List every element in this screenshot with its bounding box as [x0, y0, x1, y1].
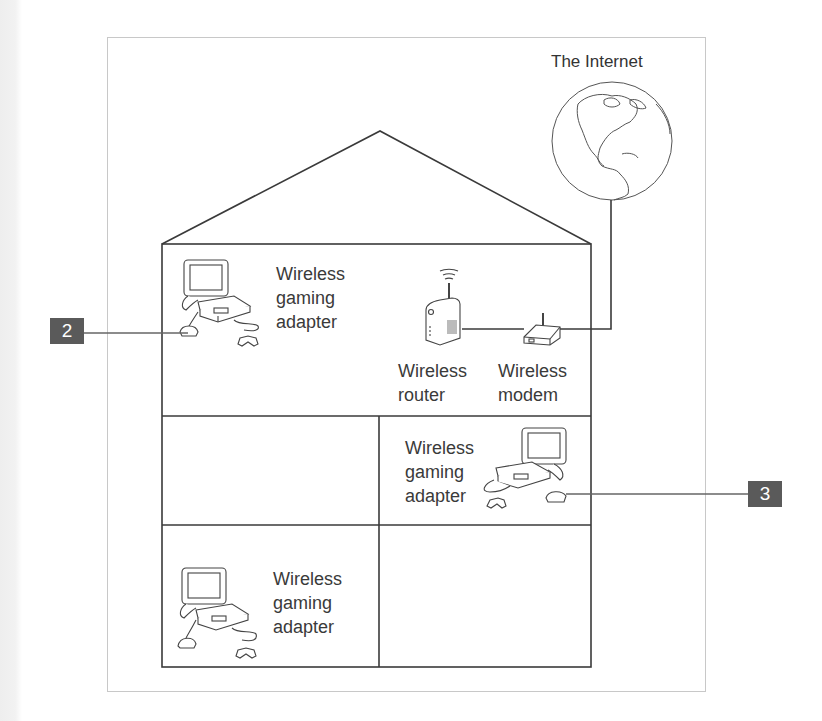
wireless-modem-icon [524, 313, 560, 345]
wireless-router-icon [426, 269, 460, 345]
game-console-icon [484, 428, 566, 508]
adapter-label-bottom: Wireless gaming adapter [273, 567, 342, 639]
adapter-label-top: Wireless gaming adapter [276, 262, 345, 334]
game-console-icon [178, 568, 256, 658]
game-console-icon [180, 260, 258, 346]
internet-label: The Internet [551, 52, 643, 72]
internet-connection-line [556, 200, 611, 329]
house-roof [162, 131, 591, 244]
callout-badge-2: 2 [50, 318, 84, 344]
router-label: Wireless router [398, 359, 467, 407]
modem-label: Wireless modem [498, 359, 567, 407]
adapter-label-middle: Wireless gaming adapter [405, 436, 474, 508]
globe-icon [552, 82, 672, 200]
callout-badge-3: 3 [748, 481, 782, 507]
